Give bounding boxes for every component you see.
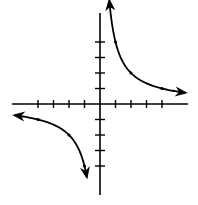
branch-quadrant-1	[109, 1, 185, 93]
data-point	[160, 87, 163, 90]
hyperbola-graph	[0, 0, 198, 205]
data-point	[67, 133, 70, 136]
branch-quadrant-3	[15, 115, 87, 177]
data-point	[36, 118, 39, 121]
axes	[12, 13, 188, 195]
data-point	[83, 164, 86, 167]
plot-area	[0, 0, 198, 205]
data-point	[114, 40, 117, 43]
data-point	[129, 71, 132, 74]
